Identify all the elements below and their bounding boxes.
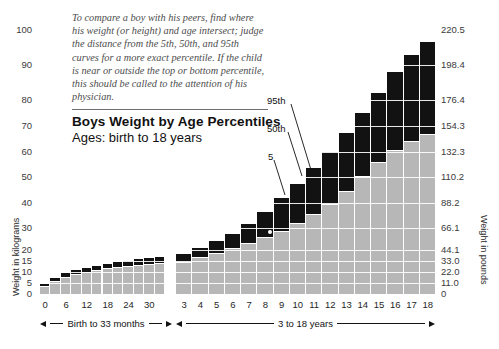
range-years-label: 3 to 18 years	[278, 318, 333, 329]
band-5th-to-50th	[50, 281, 60, 294]
band-5th-to-50th	[371, 162, 387, 294]
y-tick-right: 88.2	[441, 198, 483, 208]
range-line	[186, 323, 274, 324]
band-5th-to-50th	[387, 150, 403, 294]
callout-label-50th: 50th	[267, 124, 286, 134]
y-tick-right: 110.2	[441, 172, 483, 182]
band-50th-to-95th	[61, 273, 71, 277]
x-tick-years: 18	[416, 300, 440, 310]
callout-label-95th: 95th	[267, 96, 286, 106]
y-tick-left: 80	[2, 95, 32, 105]
band-5th-to-50th	[61, 277, 71, 294]
band-50th-to-95th	[339, 133, 355, 191]
y-tick-right: 176.4	[441, 95, 483, 105]
bar-column	[420, 8, 436, 294]
band-50th-to-95th	[155, 257, 165, 263]
y-tick-left: 90	[2, 60, 32, 70]
bar-column	[306, 8, 322, 294]
band-50th-to-95th	[306, 168, 322, 214]
band-50th-to-95th	[371, 93, 387, 162]
range-months-label: Birth to 33 months	[67, 318, 144, 329]
band-50th-to-95th	[274, 198, 290, 231]
band-50th-to-95th	[209, 241, 225, 253]
band-50th-to-95th	[176, 254, 192, 261]
arrow-right-icon	[429, 321, 435, 327]
band-50th-to-95th	[225, 234, 241, 249]
band-50th-to-95th	[387, 72, 403, 150]
band-5th-to-50th	[71, 274, 81, 294]
band-5th-to-50th	[192, 257, 208, 294]
band-50th-to-95th	[82, 268, 92, 272]
y-tick-right: 11.0	[441, 278, 483, 288]
band-50th-to-95th	[50, 278, 60, 281]
band-5th-to-50th	[339, 191, 355, 294]
band-5th-to-50th	[225, 248, 241, 294]
page-subtitle: Ages: birth to 18 years	[72, 130, 268, 145]
y-tick-left: 50	[2, 172, 32, 182]
bar-column	[50, 8, 60, 294]
bar-column	[322, 8, 338, 294]
band-50th-to-95th	[355, 113, 371, 176]
y-axis-right-title: Weight in pounds	[479, 215, 488, 284]
band-50th-to-95th	[144, 258, 154, 264]
band-5th-to-50th	[144, 264, 154, 294]
band-50th-to-95th	[241, 224, 257, 243]
page-title: Boys Weight by Age Percentiles	[72, 114, 268, 129]
band-5th-to-50th	[134, 265, 144, 294]
y-tick-left: 60	[2, 147, 32, 157]
band-5th-to-50th	[176, 262, 192, 294]
reference-dot	[268, 230, 272, 234]
bar-column	[339, 8, 355, 294]
bar-column	[404, 8, 420, 294]
band-5th-to-50th	[420, 134, 436, 294]
band-5th-to-50th	[123, 266, 133, 294]
range-years: 3 to 18 years	[176, 318, 435, 329]
band-50th-to-95th	[92, 266, 102, 270]
arrow-left-icon	[40, 321, 46, 327]
band-5th-to-50th	[82, 272, 92, 294]
band-50th-to-95th	[113, 262, 123, 267]
range-line	[149, 323, 162, 324]
x-tick-months: 30	[137, 300, 161, 310]
y-tick-left: 40	[2, 198, 32, 208]
band-5th-to-50th	[155, 263, 165, 294]
arrow-right-icon	[166, 321, 172, 327]
band-5th-to-50th	[209, 253, 225, 294]
band-5th-to-50th	[306, 214, 322, 294]
bar-column	[61, 8, 71, 294]
band-50th-to-95th	[71, 270, 81, 274]
y-axis-left-title: Weight in kilograms	[12, 218, 21, 296]
y-tick-left: 70	[2, 121, 32, 131]
divider	[72, 109, 268, 110]
callout-label-5th: 5	[268, 152, 273, 162]
band-50th-to-95th	[134, 259, 144, 265]
y-tick-right: 132.3	[441, 147, 483, 157]
weight-percentile-chart: 1009080706050403020151050 Weight in kilo…	[0, 0, 499, 349]
y-tick-left: 100	[2, 25, 32, 35]
band-5th-to-50th	[355, 176, 371, 294]
band-5th-to-50th	[113, 267, 123, 294]
bar-column	[355, 8, 371, 294]
band-50th-to-95th	[40, 284, 50, 286]
bar-column	[290, 8, 306, 294]
y-tick-right: 198.4	[441, 60, 483, 70]
band-5th-to-50th	[257, 237, 273, 294]
arrow-left-icon	[176, 321, 182, 327]
instruction-text: To compare a boy with his peers, find wh…	[72, 11, 268, 103]
y-tick-right: 44.1	[441, 245, 483, 255]
range-months: Birth to 33 months	[40, 318, 172, 329]
band-50th-to-95th	[103, 264, 113, 268]
y-tick-right: 220.5	[441, 25, 483, 35]
band-5th-to-50th	[92, 270, 102, 294]
band-5th-to-50th	[241, 243, 257, 294]
y-tick-right: 22.0	[441, 267, 483, 277]
band-5th-to-50th	[290, 223, 306, 294]
band-5th-to-50th	[322, 204, 338, 295]
y-tick-right: 33.0	[441, 256, 483, 266]
band-50th-to-95th	[322, 152, 338, 204]
range-line	[50, 323, 63, 324]
band-50th-to-95th	[404, 55, 420, 141]
band-50th-to-95th	[290, 184, 306, 224]
band-50th-to-95th	[123, 261, 133, 266]
band-50th-to-95th	[420, 42, 436, 134]
